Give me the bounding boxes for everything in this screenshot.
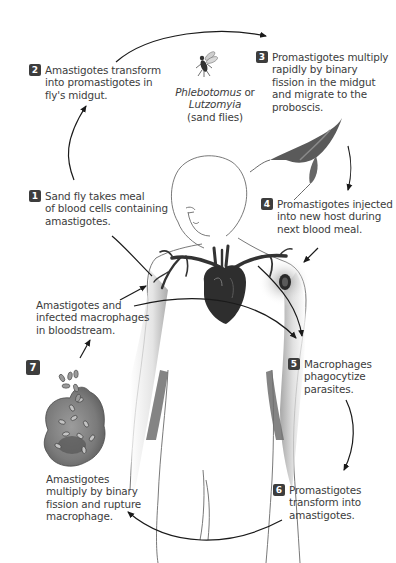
vector-label: Phlebotomus or Lutzomyia (sand flies) xyxy=(170,86,260,123)
arrow-bloodstream-to-shoulder xyxy=(120,286,146,300)
arrow-4-to-bite xyxy=(304,248,318,262)
step-4-label: Promastigotes injected into new host dur… xyxy=(277,198,393,235)
step-7-label: Amastigotes multiply by binary fission a… xyxy=(46,473,141,523)
vector-or: or xyxy=(241,86,254,98)
leishmania-life-cycle-diagram: Phlebotomus or Lutzomyia (sand flies) 1 … xyxy=(0,0,396,563)
step-3-badge: 3 xyxy=(256,51,268,63)
vector-genus-2: Lutzomyia xyxy=(170,98,260,110)
heart-illustration xyxy=(204,265,246,324)
sand-fly-illustration xyxy=(196,50,218,77)
vector-common-name: (sand flies) xyxy=(170,111,260,123)
arrow-5-to-6 xyxy=(344,400,353,470)
arrow-2-to-3 xyxy=(116,32,266,62)
step-5-label: Macrophages phagocytize parasites. xyxy=(304,358,372,395)
face-features xyxy=(186,207,199,223)
step-4-badge: 4 xyxy=(261,198,273,210)
arrow-7-to-bloodstream xyxy=(80,340,90,358)
arrow-6-to-7 xyxy=(128,512,282,540)
promastigote-illustration xyxy=(250,118,342,200)
vector-genus-1: Phlebotomus xyxy=(175,86,241,98)
step-1-label: Sand fly takes meal of blood cells conta… xyxy=(45,190,168,227)
arrow-3-to-4 xyxy=(348,146,351,190)
step-1-badge: 1 xyxy=(29,190,41,202)
step-2-badge: 2 xyxy=(29,64,41,76)
ruptured-macrophage-illustration xyxy=(44,370,105,466)
step-7-badge: 7 xyxy=(26,360,40,375)
arrow-1-to-arm xyxy=(112,236,152,276)
step-2-label: Amastigotes transform into promastigotes… xyxy=(45,64,161,101)
arrow-1-to-2 xyxy=(68,106,86,180)
step-6-badge: 6 xyxy=(273,484,285,496)
step-6-label: Promastigotes transform into amastigotes… xyxy=(289,484,361,521)
step-5-badge: 5 xyxy=(288,358,300,370)
step-3-label: Promastigotes multiply rapidly by binary… xyxy=(272,51,388,113)
bloodstream-label: Amastigotes and infected macrophages in … xyxy=(36,299,149,336)
